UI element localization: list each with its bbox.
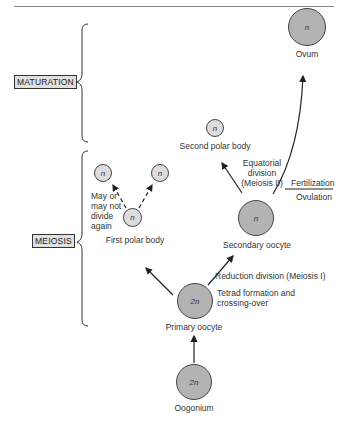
equatorial-line-3: (Meiosis II) — [232, 178, 292, 188]
first-polar-body-label: First polar body — [95, 235, 175, 245]
meiosis-brace — [77, 151, 88, 326]
second-polar-body-label: Second polar body — [170, 141, 260, 151]
line-2: may not — [91, 201, 121, 211]
tetrad-annotation: Tetrad formation and crossing-over — [217, 288, 295, 308]
fertilization-label: Fertilization — [291, 178, 334, 188]
reduction-division-label: Reduction division (Meiosis I) — [215, 271, 326, 281]
second-polar-body-cell: n — [206, 119, 224, 137]
secondary-oocyte-label: Secondary oocyte — [221, 240, 293, 250]
equatorial-line-1: Equatorial — [232, 158, 292, 168]
ploidy: n — [254, 214, 258, 223]
line-1: Tetrad formation and — [217, 288, 295, 298]
primary-oocyte-label: Primary oocyte — [157, 322, 231, 332]
first-polar-body-division-right: n — [151, 164, 169, 182]
secondary-oocyte-cell: n — [238, 200, 274, 236]
oogonium-cell: 2n — [176, 364, 212, 400]
stage-label-meiosis: MEIOSIS — [32, 234, 75, 248]
ploidy: n — [130, 213, 134, 222]
primary-oocyte-cell: 2n — [177, 283, 213, 319]
first-polar-body-division-left: n — [94, 164, 112, 182]
ovum-label: Ovum — [277, 49, 337, 59]
ovulation-label: Ovulation — [296, 192, 332, 202]
oogonium-label: Oogonium — [164, 403, 224, 413]
ovum-cell: n — [288, 8, 326, 46]
may-not-divide-annotation: May or may not divide again — [91, 191, 121, 231]
maturation-brace — [77, 24, 88, 142]
line-1: May or — [91, 191, 121, 201]
ploidy: n — [158, 169, 162, 178]
first-polar-body-cell: n — [123, 208, 142, 227]
ploidy: 2n — [190, 378, 199, 387]
ovum-ploidy: n — [305, 23, 309, 32]
ploidy: 2n — [191, 297, 200, 306]
line-2: crossing-over — [217, 298, 295, 308]
ploidy: n — [101, 169, 105, 178]
stage-label-maturation: MATURATION — [14, 75, 77, 89]
equatorial-annotation: Equatorial division (Meiosis II) — [232, 158, 292, 188]
second-polar-body-ploidy: n — [213, 124, 217, 133]
diagram-lines — [0, 0, 346, 423]
line-3: divide — [91, 211, 121, 221]
line-4: again — [91, 221, 121, 231]
equatorial-line-2: division — [232, 168, 292, 178]
